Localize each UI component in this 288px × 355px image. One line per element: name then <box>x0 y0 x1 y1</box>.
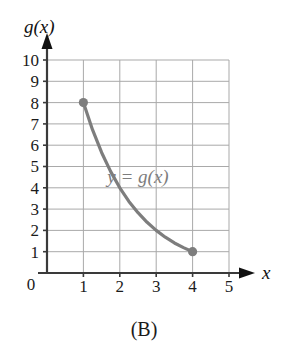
y-tick-label: 2 <box>31 221 40 240</box>
x-axis-arrow-icon <box>239 268 255 279</box>
y-tick-label: 9 <box>31 72 40 91</box>
x-tick-label: 5 <box>225 277 234 296</box>
x-tick-label: 3 <box>152 277 161 296</box>
y-tick-label: 5 <box>31 157 40 176</box>
y-tick-label: 1 <box>31 243 40 262</box>
x-axis-label: x <box>261 262 271 283</box>
x-axis <box>38 268 255 279</box>
x-tick-label: 4 <box>188 277 197 296</box>
x-tick-label: 2 <box>116 277 125 296</box>
y-tick-label: 10 <box>22 51 39 70</box>
y-axis <box>42 33 53 273</box>
curve-label: y = g(x) <box>105 166 168 188</box>
y-tick-label: 8 <box>31 94 40 113</box>
x-tick-label: 1 <box>79 277 88 296</box>
y-tick-label: 4 <box>31 179 40 198</box>
graph-plot: g(x) x 0 1 2 3 4 5 6 7 8 9 10 1 2 3 4 5 … <box>0 0 288 355</box>
data-point <box>188 247 197 256</box>
y-tick-label: 7 <box>31 115 40 134</box>
y-tick-label: 6 <box>31 136 40 155</box>
y-tick-label: 3 <box>31 200 40 219</box>
origin-label: 0 <box>27 275 36 294</box>
data-point <box>79 98 88 107</box>
figure-container: g(x) x 0 1 2 3 4 5 6 7 8 9 10 1 2 3 4 5 … <box>0 0 288 355</box>
y-axis-label: g(x) <box>24 16 55 38</box>
